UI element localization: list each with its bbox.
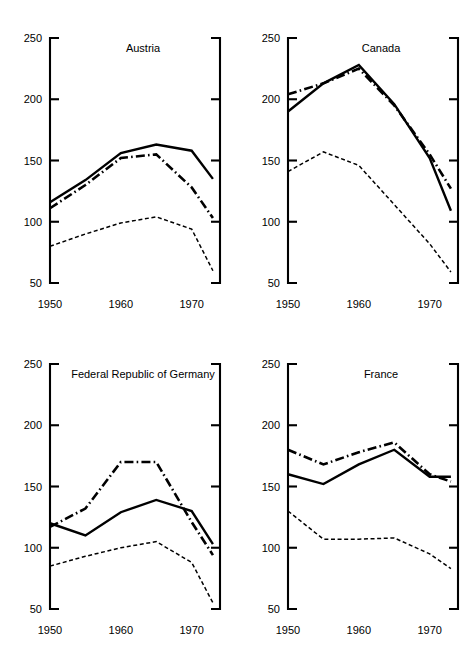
panel-title: Federal Republic of Germany	[71, 368, 215, 380]
series-line-solid	[50, 145, 213, 203]
y-tick-label: 100	[262, 542, 280, 554]
x-tick-label: 1960	[347, 298, 371, 310]
panel-plot-area: 50100150200250195019601970France	[238, 326, 476, 652]
panel-title: Austria	[126, 42, 161, 54]
y-tick-label: 50	[30, 277, 42, 289]
y-tick-label: 200	[24, 419, 42, 431]
panel-austria: 50100150200250195019601970Austria	[0, 0, 238, 326]
x-tick-label: 1970	[179, 298, 203, 310]
series-line-solid	[288, 450, 451, 484]
x-tick-label: 1970	[179, 624, 203, 636]
x-tick-label: 1950	[276, 298, 300, 310]
y-tick-label: 50	[268, 277, 280, 289]
panel-title: France	[364, 368, 398, 380]
panel-canada: 50100150200250195019601970Canada	[238, 0, 476, 326]
y-tick-label: 250	[262, 32, 280, 44]
y-tick-label: 100	[24, 542, 42, 554]
y-tick-label: 150	[262, 481, 280, 493]
y-tick-label: 250	[262, 358, 280, 370]
x-tick-label: 1960	[109, 624, 133, 636]
panel-plot-area: 50100150200250195019601970Federal Republ…	[0, 326, 238, 652]
x-tick-label: 1950	[38, 624, 62, 636]
figure-multi-panel-line-chart: 50100150200250195019601970Austria 501001…	[0, 0, 476, 652]
x-tick-label: 1970	[417, 298, 441, 310]
y-tick-label: 250	[24, 358, 42, 370]
series-line-dash-dot	[288, 69, 451, 189]
y-tick-label: 200	[262, 419, 280, 431]
y-tick-label: 50	[30, 603, 42, 615]
y-tick-label: 150	[24, 481, 42, 493]
y-tick-label: 200	[262, 93, 280, 105]
y-tick-label: 250	[24, 32, 42, 44]
series-line-dashed	[50, 542, 213, 603]
panel-germany: 50100150200250195019601970Federal Republ…	[0, 326, 238, 652]
series-line-dashed	[288, 152, 451, 272]
panel-plot-area: 50100150200250195019601970Austria	[0, 0, 238, 326]
series-line-solid	[50, 500, 213, 544]
panel-france: 50100150200250195019601970France	[238, 326, 476, 652]
y-tick-label: 150	[24, 155, 42, 167]
x-tick-label: 1950	[276, 624, 300, 636]
x-tick-label: 1960	[347, 624, 371, 636]
panel-title: Canada	[362, 42, 401, 54]
series-line-dashed	[50, 217, 213, 271]
y-tick-label: 150	[262, 155, 280, 167]
y-tick-label: 50	[268, 603, 280, 615]
y-tick-label: 100	[24, 216, 42, 228]
y-tick-label: 100	[262, 216, 280, 228]
x-tick-label: 1970	[417, 624, 441, 636]
panel-plot-area: 50100150200250195019601970Canada	[238, 0, 476, 326]
x-tick-label: 1950	[38, 298, 62, 310]
x-tick-label: 1960	[109, 298, 133, 310]
y-tick-label: 200	[24, 93, 42, 105]
series-line-dashed	[288, 511, 451, 569]
